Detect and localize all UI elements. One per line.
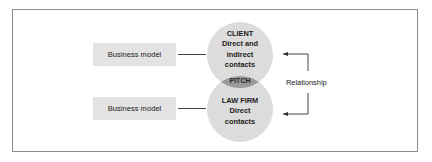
lawfirm-line: contacts: [205, 117, 275, 127]
lawfirm-label: LAW FIRM Direct contacts: [205, 96, 275, 127]
client-line: Direct and: [205, 39, 275, 49]
lawfirm-line: Direct: [205, 106, 275, 116]
client-label: CLIENT Direct and indirect contacts: [205, 29, 275, 71]
client-line: indirect: [205, 50, 275, 60]
venn-diagram: [0, 0, 432, 162]
relationship-label: Relationship: [286, 78, 327, 87]
client-line: contacts: [205, 60, 275, 70]
arrow-left-icon: [282, 52, 288, 56]
arrow-left-icon: [282, 112, 288, 116]
client-title: CLIENT: [205, 29, 275, 39]
lawfirm-title: LAW FIRM: [205, 96, 275, 106]
pitch-label: PITCH: [220, 77, 260, 84]
